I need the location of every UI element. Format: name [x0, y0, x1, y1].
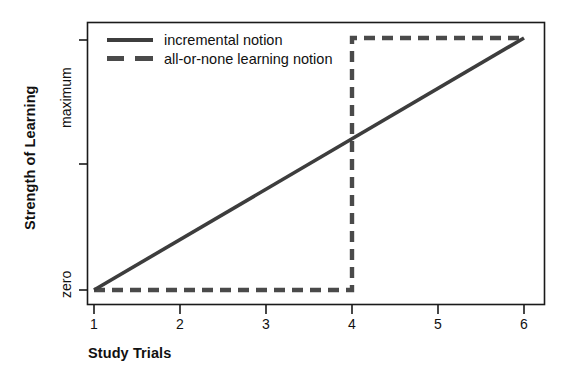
legend-label-incremental-notion: incremental notion	[164, 32, 283, 48]
x-tick-label-4: 4	[340, 316, 364, 332]
x-tick-label-5: 5	[426, 316, 450, 332]
legend-label-all-or-none-learning-notion: all-or-none learning notion	[164, 51, 332, 67]
x-tick-label-1: 1	[82, 316, 106, 332]
chart-figure: Strength of Learning Study Trials maximu…	[0, 0, 562, 375]
x-tick-label-2: 2	[168, 316, 192, 332]
legend-item-incremental-notion: incremental notion	[107, 30, 332, 49]
x-tick-label-3: 3	[254, 316, 278, 332]
series-incremental-notion	[94, 38, 524, 290]
legend-item-all-or-none-learning-notion: all-or-none learning notion	[107, 49, 332, 68]
x-axis-title: Study Trials	[88, 345, 171, 361]
legend-swatch-solid-line-icon	[107, 38, 153, 42]
x-tick-label-6: 6	[512, 316, 536, 332]
chart-legend: incremental notion all-or-none learning …	[107, 30, 332, 68]
legend-swatch-dashed-line-icon	[107, 56, 153, 61]
y-tick-label-maximum: maximum	[58, 67, 74, 128]
y-tick-label-zero: zero	[58, 271, 74, 298]
y-axis-title: Strength of Learning	[22, 85, 38, 230]
